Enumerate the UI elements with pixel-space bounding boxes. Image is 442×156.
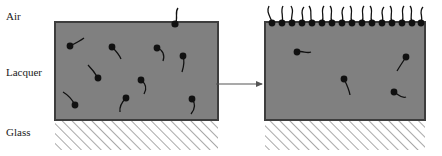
left-panel [55, 8, 218, 150]
right-lacquer-layer [265, 22, 425, 120]
right-glass-substrate [265, 120, 425, 150]
label-glass: Glass [6, 126, 30, 138]
left-glass-substrate [55, 120, 218, 150]
left-glass-hatch-region [55, 120, 218, 150]
left-lacquer-layer [55, 22, 218, 120]
right-panel [265, 6, 425, 150]
label-air: Air [6, 10, 21, 22]
label-lacquer: Lacquer [6, 66, 42, 78]
figure-root: Air Lacquer Glass [0, 0, 442, 156]
right-glass-hatch-region [265, 120, 425, 150]
diagram-canvas: Air Lacquer Glass [0, 0, 442, 156]
